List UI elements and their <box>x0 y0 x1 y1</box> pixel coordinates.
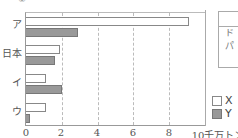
bar-u-x <box>26 103 46 112</box>
x-tick: 0 <box>23 127 29 138</box>
side-table-partial: ド パ <box>218 11 238 68</box>
chart-title-partial: ⑥ <box>18 0 26 4</box>
bar-i-x <box>26 74 46 83</box>
side-text: ド <box>219 27 238 40</box>
legend-item-x: X <box>212 94 233 107</box>
x-tick: 6 <box>130 127 136 138</box>
gridline <box>98 13 99 125</box>
legend-swatch-y <box>212 109 222 119</box>
x-tick: 4 <box>94 127 100 138</box>
bar-a-x <box>26 17 189 26</box>
legend-item-y: Y <box>212 107 233 120</box>
category-label: イ <box>0 74 22 89</box>
legend: X Y <box>212 94 233 120</box>
category-label: ア <box>0 16 22 31</box>
chart-frame-right <box>205 10 206 126</box>
category-label: 日本 <box>0 45 22 60</box>
bar-u-y <box>26 114 30 123</box>
category-label: ウ <box>0 103 22 118</box>
gridline <box>133 13 134 125</box>
gridline <box>169 13 170 125</box>
x-tick: 2 <box>58 127 64 138</box>
plot-area <box>25 12 205 126</box>
bar-a-y <box>26 28 78 37</box>
bar-japan-x <box>26 45 60 54</box>
x-tick-unit: 10千万トン <box>192 127 238 138</box>
legend-swatch-x <box>212 96 222 106</box>
side-text: パ <box>219 40 238 53</box>
bar-japan-y <box>26 56 55 65</box>
bar-i-y <box>26 85 62 94</box>
x-tick: 8 <box>166 127 172 138</box>
